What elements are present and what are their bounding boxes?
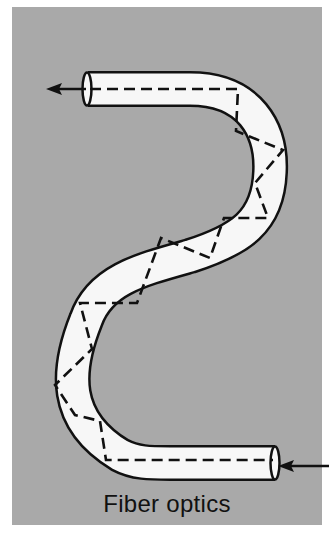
output-arrow-icon	[46, 83, 86, 95]
figure-canvas: Fiber optics	[0, 0, 329, 535]
fiber-end-bottom	[271, 447, 280, 480]
fiber-optics-diagram	[0, 0, 329, 535]
fiber-cable	[73, 89, 275, 463]
input-arrow-icon	[278, 460, 329, 472]
figure-caption: Fiber optics	[12, 490, 322, 518]
